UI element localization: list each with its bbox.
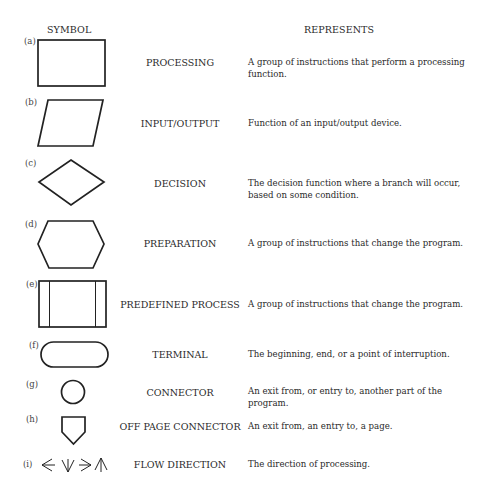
arrow-left-icon [42,459,55,471]
description-terminal: The beginning, end, or a point of interr… [248,349,473,361]
row-letter-g: (g) [26,379,38,389]
symbol-name-input-output: INPUT/OUTPUT [105,118,255,129]
description-preparation: A group of instructions that change the … [248,238,473,250]
symbol-name-decision: DECISION [105,178,255,189]
description-off-page-connector: An exit from, an entry to, a page. [248,421,473,433]
arrow-down-icon [62,459,74,472]
flow-arrows-icon [42,458,107,472]
arrow-right-icon [79,459,91,471]
terminal-icon [41,342,108,367]
description-input-output: Function of an input/output device. [248,118,473,130]
hexagon-icon [38,221,104,268]
symbol-name-preparation: PREPARATION [105,238,255,249]
description-predefined-process: A group of instructions that change the … [248,299,473,311]
diamond-icon [39,160,104,205]
predefined-process-icon [39,281,106,327]
symbol-name-terminal: TERMINAL [105,349,255,360]
symbol-name-flow-direction: FLOW DIRECTION [105,459,255,470]
row-letter-i: (i) [23,459,32,469]
row-letter-e: (e) [26,279,38,289]
description-decision: The decision function where a branch wil… [248,178,473,201]
symbol-name-connector: CONNECTOR [105,387,255,398]
row-letter-c: (c) [25,158,36,168]
row-letter-a: (a) [24,36,36,46]
symbol-name-off-page-connector: OFF PAGE CONNECTOR [105,421,255,432]
row-letter-b: (b) [25,97,37,107]
off-page-connector-icon [62,417,85,444]
description-connector: An exit from, or entry to, another part … [248,386,473,409]
rectangle-icon [38,40,105,86]
circle-connector-icon [62,381,85,404]
parallelogram-icon [38,100,103,146]
symbol-name-predefined-process: PREDEFINED PROCESS [105,299,255,310]
row-letter-h: (h) [26,414,38,424]
symbol-name-processing: PROCESSING [105,57,255,68]
row-letter-d: (d) [25,219,37,229]
description-flow-direction: The direction of processing. [248,459,473,471]
row-letter-f: (f) [29,340,39,350]
description-processing: A group of instructions that perform a p… [248,57,473,80]
